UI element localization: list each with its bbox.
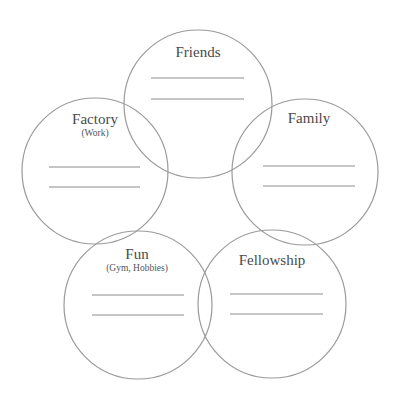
circle-title: Fellowship: [239, 252, 306, 268]
circle-subtitle: (Work): [81, 128, 108, 139]
circle-title: Friends: [176, 44, 221, 60]
circle-fellowship: Fellowship: [198, 230, 346, 378]
circle-factory: Factory (Work): [22, 98, 168, 244]
circle-friends: Friends: [124, 30, 272, 178]
circle-fun: Fun (Gym, Hobbies): [64, 231, 212, 379]
circle-family: Family: [232, 99, 378, 245]
circle-title: Factory: [72, 111, 118, 127]
circle-subtitle: (Gym, Hobbies): [106, 263, 168, 274]
five-f-diagram: Friends Factory (Work) Family Fun (Gym, …: [0, 0, 397, 401]
circle-title: Fun: [125, 246, 149, 262]
circle-title: Family: [288, 110, 331, 126]
